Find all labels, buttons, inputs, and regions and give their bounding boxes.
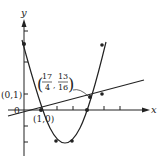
svg-text:16: 16 bbox=[58, 83, 68, 92]
point-intersection bbox=[88, 95, 92, 99]
point-on-line bbox=[100, 92, 104, 96]
svg-text:13: 13 bbox=[58, 72, 68, 81]
intersection-label: ( 17 4 , 13 16 ) bbox=[37, 72, 74, 94]
point-parabola-upper bbox=[100, 43, 104, 47]
svg-text:): ) bbox=[68, 75, 74, 94]
linear-line bbox=[8, 80, 144, 116]
point-y-intercept-parabola bbox=[22, 42, 26, 46]
point-parabola-x-intercept bbox=[85, 108, 89, 112]
x-axis-arrow-icon bbox=[142, 108, 150, 113]
point-1-0-label: (1,0) bbox=[33, 114, 54, 124]
y-axis-label: y bbox=[20, 7, 27, 18]
svg-text:,: , bbox=[53, 81, 56, 90]
x-axis-label: x bbox=[151, 104, 157, 115]
svg-text:17: 17 bbox=[42, 72, 52, 81]
graph: y x 0 (0,1) (1,0) ( 17 4 , 13 bbox=[0, 0, 159, 159]
svg-text:4: 4 bbox=[45, 83, 50, 92]
point-1-0 bbox=[39, 108, 43, 112]
point-parabola-min-left bbox=[54, 139, 58, 143]
point-0-1-label: (0,1) bbox=[1, 90, 22, 100]
point-parabola-min-right bbox=[70, 139, 74, 143]
y-axis-arrow-icon bbox=[22, 19, 27, 27]
